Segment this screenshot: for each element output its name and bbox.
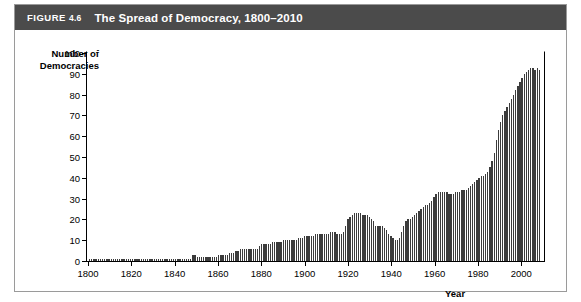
- bar: [360, 213, 361, 261]
- bar: [188, 259, 189, 261]
- bar: [214, 257, 215, 261]
- bar: [375, 226, 376, 261]
- bar: [240, 249, 241, 261]
- bar: [166, 259, 167, 261]
- bar: [472, 184, 473, 261]
- y-tick-mark: [82, 53, 87, 54]
- bar: [392, 238, 393, 261]
- bar: [138, 259, 139, 261]
- bar: [321, 234, 322, 261]
- bar: [261, 244, 262, 261]
- bar: [93, 259, 94, 261]
- bar: [455, 192, 456, 261]
- bar: [487, 172, 488, 261]
- bar: [231, 253, 232, 261]
- bar: [427, 205, 428, 261]
- bar: [95, 259, 96, 261]
- y-tick-mark: [82, 95, 87, 96]
- y-tick-label: 0: [75, 256, 80, 267]
- x-tick-mark: [88, 261, 89, 266]
- bar: [207, 257, 208, 261]
- bar: [244, 249, 245, 261]
- bar: [431, 201, 432, 261]
- bar: [491, 161, 492, 261]
- bar: [253, 249, 254, 261]
- x-tick-mark: [261, 261, 262, 266]
- bar: [386, 230, 387, 261]
- bar: [145, 259, 146, 261]
- bar: [276, 242, 277, 261]
- bar: [117, 259, 118, 261]
- bar: [147, 259, 148, 261]
- bar: [336, 234, 337, 261]
- bar: [476, 180, 477, 261]
- bar: [128, 259, 129, 261]
- x-tick-label: 1840: [164, 268, 185, 279]
- x-tick-label: 1800: [77, 268, 98, 279]
- bar: [123, 259, 124, 261]
- bar: [414, 215, 415, 261]
- bar: [506, 107, 507, 261]
- y-tick-mark: [82, 157, 87, 158]
- bar: [521, 78, 522, 261]
- bar: [349, 217, 350, 261]
- bar: [237, 251, 238, 261]
- bar: [352, 215, 353, 261]
- bar: [347, 219, 348, 261]
- bar: [259, 246, 260, 261]
- bar: [489, 167, 490, 261]
- bar: [317, 234, 318, 261]
- bar: [265, 244, 266, 261]
- bar: [126, 259, 127, 261]
- bar: [397, 240, 398, 261]
- bar: [201, 257, 202, 261]
- y-tick-label: 30: [69, 193, 80, 204]
- bar: [478, 178, 479, 261]
- bar: [233, 253, 234, 261]
- bar: [405, 221, 406, 261]
- bar: [154, 259, 155, 261]
- x-tick-label: 1920: [337, 268, 358, 279]
- bar: [169, 259, 170, 261]
- bar: [463, 190, 464, 261]
- bar: [235, 251, 236, 261]
- bar: [399, 238, 400, 261]
- bar: [450, 194, 451, 261]
- bar: [162, 259, 163, 261]
- bar: [121, 259, 122, 261]
- bar: [225, 255, 226, 261]
- bar: [423, 207, 424, 261]
- bar: [186, 259, 187, 261]
- bar: [515, 90, 516, 261]
- y-tick-mark: [82, 115, 87, 116]
- bar: [246, 249, 247, 261]
- bar: [141, 259, 142, 261]
- bar: [270, 244, 271, 261]
- bar: [160, 259, 161, 261]
- bar: [177, 259, 178, 261]
- y-tick-label: 10: [69, 235, 80, 246]
- bar: [291, 240, 292, 261]
- bar: [102, 259, 103, 261]
- x-tick-mark: [218, 261, 219, 266]
- bar: [151, 259, 152, 261]
- bar: [373, 221, 374, 261]
- y-tick-mark: [82, 178, 87, 179]
- x-tick-mark: [131, 261, 132, 266]
- bar: [345, 226, 346, 261]
- bar: [420, 209, 421, 261]
- bar: [300, 238, 301, 261]
- bar: [199, 257, 200, 261]
- bar: [285, 240, 286, 261]
- bar: [272, 242, 273, 261]
- plot-frame: 0102030405060708090100 18001820184018601…: [86, 51, 545, 262]
- bar: [334, 232, 335, 261]
- bar: [483, 176, 484, 261]
- bar: [498, 130, 499, 261]
- bar: [502, 115, 503, 261]
- bar: [229, 253, 230, 261]
- bar: [143, 259, 144, 261]
- bar: [119, 259, 120, 261]
- bar: [509, 103, 510, 261]
- bar: [158, 259, 159, 261]
